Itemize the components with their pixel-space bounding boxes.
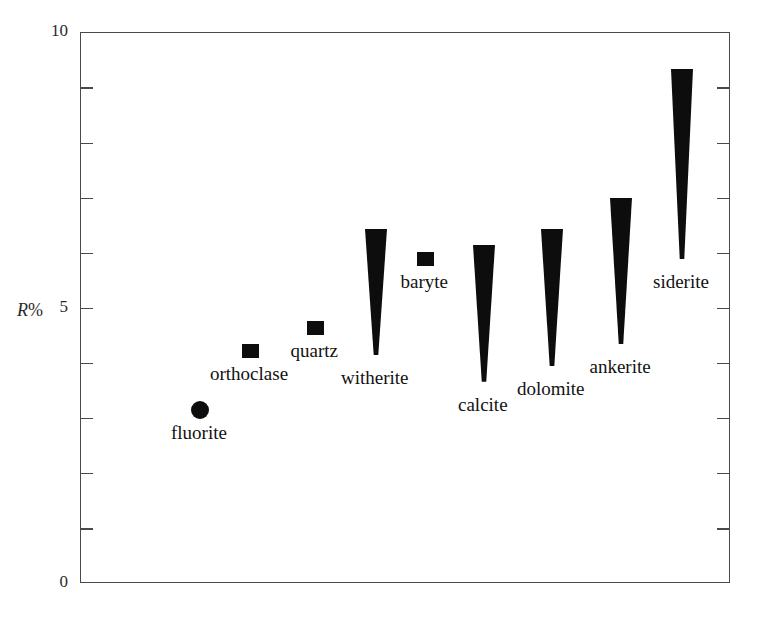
y-axis-tick-right-2 [717,473,729,474]
y-axis-tick-right-4 [717,363,729,364]
data-marker-fluorite [191,401,209,419]
y-axis-tick-left-8 [81,143,93,144]
data-marker-ankerite [610,198,632,344]
y-axis-tick-left-4 [81,363,93,364]
y-axis-tick-left-1 [81,528,93,529]
data-label-baryte: baryte [401,272,448,291]
data-marker-calcite [473,245,495,382]
data-label-siderite: siderite [653,272,709,291]
chart-figure: 10 5 0 R% fluoriteorthoclasequartzwither… [0,0,773,619]
y-axis-title-percent: % [28,300,43,320]
y-axis-tick-label-10: 10 [28,22,68,39]
data-label-witherite: witherite [341,368,409,387]
data-label-dolomite: dolomite [517,379,585,398]
data-marker-witherite [365,229,387,356]
y-axis-tick-left-5 [81,308,93,309]
data-label-orthoclase: orthoclase [210,364,288,383]
data-label-quartz: quartz [291,341,338,360]
plot-area [80,32,730,583]
y-axis-title: R% [17,300,43,321]
data-marker-quartz [307,321,324,335]
y-axis-tick-left-6 [81,253,93,254]
y-axis-tick-right-9 [717,87,729,88]
y-axis-tick-right-5 [717,308,729,309]
y-axis-tick-right-6 [717,253,729,254]
y-axis-tick-left-7 [81,198,93,199]
y-axis-title-r: R [17,300,28,320]
y-axis-tick-left-9 [81,87,93,88]
y-axis-tick-label-0: 0 [28,573,68,590]
y-axis-tick-right-1 [717,528,729,529]
y-axis-tick-left-2 [81,473,93,474]
y-axis-tick-right-3 [717,418,729,419]
data-label-ankerite: ankerite [590,357,651,376]
data-marker-orthoclase [242,344,259,358]
data-marker-baryte [417,252,434,266]
data-label-calcite: calcite [458,395,508,414]
y-axis-tick-left-3 [81,418,93,419]
y-axis-tick-right-7 [717,198,729,199]
data-marker-siderite [671,69,693,259]
data-label-fluorite: fluorite [171,423,227,442]
y-axis-tick-right-8 [717,143,729,144]
data-marker-dolomite [541,229,563,367]
